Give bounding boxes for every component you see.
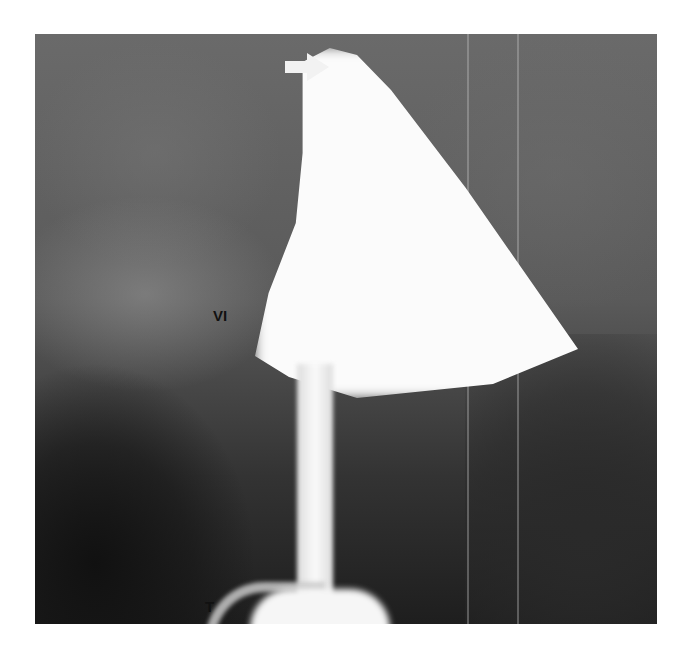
contrast-filled-cavity xyxy=(255,48,595,398)
radiograph-image: VI T xyxy=(35,34,657,624)
cannula-base xyxy=(250,589,390,624)
arrow-right-icon xyxy=(283,52,331,82)
label-t: T xyxy=(205,598,214,615)
label-vi: VI xyxy=(213,307,227,324)
